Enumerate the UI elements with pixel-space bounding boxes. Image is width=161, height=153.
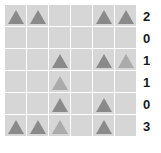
grid-cell[interactable] xyxy=(49,5,70,26)
triangle-icon xyxy=(96,10,112,24)
grid-cell[interactable] xyxy=(115,115,136,136)
grid-cell[interactable] xyxy=(115,49,136,70)
grid-cell[interactable] xyxy=(71,115,92,136)
triangle-icon xyxy=(30,120,46,134)
triangle-icon xyxy=(52,54,68,68)
grid-cell[interactable] xyxy=(49,93,70,114)
grid-cell[interactable] xyxy=(27,93,48,114)
grid-cell[interactable] xyxy=(93,5,114,26)
grid-cell[interactable] xyxy=(93,49,114,70)
grid-cell[interactable] xyxy=(93,71,114,92)
grid-cell[interactable] xyxy=(115,93,136,114)
row-label: 0 xyxy=(143,27,150,49)
triangle-icon xyxy=(96,54,112,68)
grid-cell[interactable] xyxy=(27,27,48,48)
grid-cell[interactable] xyxy=(49,115,70,136)
triangle-icon xyxy=(52,120,68,134)
row-label: 3 xyxy=(143,115,150,137)
row-label: 0 xyxy=(143,93,150,115)
triangle-icon xyxy=(52,98,68,112)
triangle-icon xyxy=(96,98,112,112)
grid-cell[interactable] xyxy=(5,115,26,136)
row-label: 2 xyxy=(143,5,150,27)
row-label-column: 201103 xyxy=(143,5,150,137)
triangle-icon xyxy=(118,10,134,24)
grid-cell[interactable] xyxy=(93,27,114,48)
grid-cell[interactable] xyxy=(5,71,26,92)
grid-cell[interactable] xyxy=(93,115,114,136)
grid-cell[interactable] xyxy=(115,27,136,48)
grid-cell[interactable] xyxy=(71,49,92,70)
grid-cell[interactable] xyxy=(49,27,70,48)
grid-cell[interactable] xyxy=(49,49,70,70)
grid-cell[interactable] xyxy=(5,49,26,70)
grid-cell[interactable] xyxy=(5,27,26,48)
triangle-grid-puzzle: 201103 xyxy=(0,0,161,153)
grid-cell[interactable] xyxy=(27,115,48,136)
triangle-icon xyxy=(118,54,134,68)
row-label: 1 xyxy=(143,71,150,93)
grid-cell[interactable] xyxy=(71,5,92,26)
triangle-icon xyxy=(52,76,68,90)
grid-cell[interactable] xyxy=(115,5,136,26)
grid-cell[interactable] xyxy=(27,71,48,92)
grid-cell[interactable] xyxy=(49,71,70,92)
grid-container xyxy=(5,5,136,136)
triangle-grid xyxy=(5,5,136,136)
grid-cell[interactable] xyxy=(93,93,114,114)
grid-cell[interactable] xyxy=(5,93,26,114)
triangle-icon xyxy=(8,10,24,24)
row-label: 1 xyxy=(143,49,150,71)
grid-cell[interactable] xyxy=(71,71,92,92)
triangle-icon xyxy=(96,120,112,134)
grid-cell[interactable] xyxy=(71,27,92,48)
grid-cell[interactable] xyxy=(71,93,92,114)
grid-cell[interactable] xyxy=(115,71,136,92)
grid-cell[interactable] xyxy=(5,5,26,26)
triangle-icon xyxy=(30,10,46,24)
grid-cell[interactable] xyxy=(27,5,48,26)
grid-cell[interactable] xyxy=(27,49,48,70)
triangle-icon xyxy=(8,120,24,134)
screenshot-root: 201103 xyxy=(0,0,161,153)
